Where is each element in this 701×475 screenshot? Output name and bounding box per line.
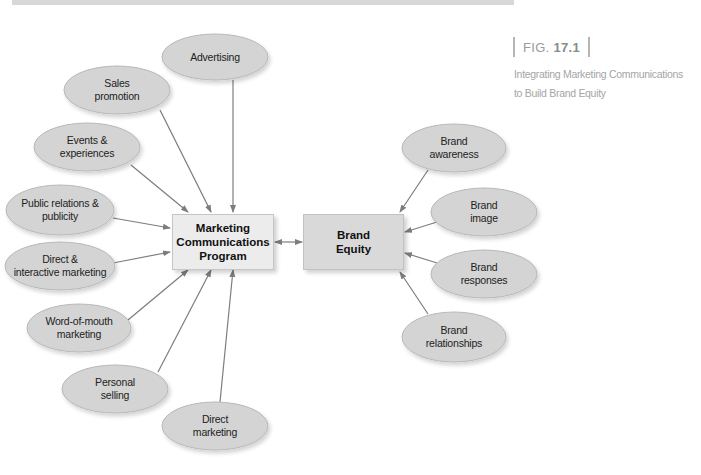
arrow-personal-selling (158, 270, 211, 372)
node-label-line2: experiences (60, 147, 114, 160)
caption-line1: Integrating Marketing Communications (514, 65, 699, 84)
figure-number: FIG. 17.1 (515, 40, 588, 55)
arrow-public-relations (113, 218, 170, 228)
node-direct-marketing: Direct marketing (162, 402, 268, 450)
node-label-line2: image (470, 212, 498, 225)
node-label-line1: Brand (461, 261, 508, 274)
node-label-line1: Personal (95, 376, 135, 389)
box-label-line2: Communications (176, 235, 269, 249)
arrow-word-of-mouth (128, 270, 188, 320)
arrow-direct-marketing (220, 270, 233, 402)
node-sales-promotion: Sales promotion (64, 66, 170, 114)
marketing-communications-program-box: Marketing Communications Program (172, 214, 274, 270)
brand-equity-box: Brand Equity (303, 214, 404, 270)
figure-prefix: FIG. (523, 40, 549, 55)
node-label-line2: interactive marketing (14, 266, 107, 279)
node-label-line2: selling (95, 389, 135, 402)
node-label-line2: awareness (430, 148, 479, 161)
node-label-line1: Direct & (14, 253, 107, 266)
node-label-line2: promotion (95, 90, 140, 103)
arrow-brand-relationships (400, 272, 428, 314)
node-label-line2: publicity (21, 210, 99, 223)
node-personal-selling: Personal selling (62, 365, 168, 413)
figure-number-value: 17.1 (553, 40, 580, 55)
arrow-sales-promotion (160, 110, 211, 212)
box-label-line3: Program (176, 249, 269, 263)
node-label-line2: responses (461, 274, 508, 287)
arrow-events (131, 165, 188, 212)
box-label-line1: Marketing (176, 221, 269, 235)
box-label-line2: Equity (336, 242, 371, 256)
node-word-of-mouth: Word-of-mouth marketing (27, 304, 131, 352)
node-label-line2: relationships (426, 337, 482, 350)
arrow-brand-awareness (400, 170, 428, 212)
node-label-line1: Direct (193, 413, 237, 426)
node-label-line1: Word-of-mouth (45, 315, 112, 328)
node-label: Advertising (190, 51, 240, 64)
node-label-line2: marketing (193, 426, 237, 439)
node-direct-interactive: Direct & interactive marketing (5, 242, 115, 290)
node-label-line1: Brand (426, 324, 482, 337)
figure-label: FIG. 17.1 (513, 37, 590, 57)
node-brand-relationships: Brand relationships (402, 312, 506, 362)
node-label-line1: Sales (95, 77, 140, 90)
node-public-relations: Public relations & publicity (6, 185, 114, 235)
node-label-line1: Events & (60, 134, 114, 147)
figure-caption: Integrating Marketing Communications to … (514, 65, 699, 103)
node-label-line1: Brand (470, 199, 498, 212)
box-label-line1: Brand (336, 228, 371, 242)
figure-label-right-bar (588, 37, 590, 57)
node-brand-image: Brand image (431, 188, 537, 236)
node-advertising: Advertising (162, 34, 268, 80)
node-brand-awareness: Brand awareness (402, 124, 506, 172)
caption-line2: to Build Brand Equity (514, 84, 699, 103)
node-label-line1: Public relations & (21, 197, 99, 210)
arrow-direct-interactive (113, 252, 170, 263)
node-label-line2: marketing (45, 328, 112, 341)
node-events-experiences: Events & experiences (34, 123, 140, 171)
node-label-line1: Brand (430, 135, 479, 148)
node-brand-responses: Brand responses (431, 250, 537, 298)
